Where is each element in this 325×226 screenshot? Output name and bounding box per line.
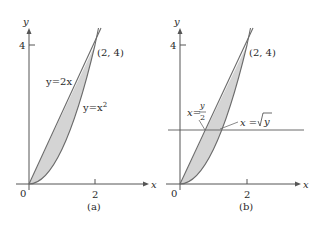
y-axis-label-b: y — [173, 16, 180, 27]
parabola-label-base-a: y=x — [82, 102, 103, 113]
line-label-num-b: y — [199, 101, 205, 110]
caption-b: (b) — [239, 201, 253, 212]
y-tick-label-4-b: 4 — [170, 40, 176, 51]
x-axis-arrow-b — [295, 182, 301, 187]
caption-a: (a) — [87, 201, 101, 212]
x-axis-label-a: x — [151, 179, 157, 190]
x-axis-arrow-a — [143, 182, 149, 187]
panel-a: y x 4 0 2 (a) (2, 4) y=2x y=x2 — [16, 16, 157, 212]
panel-b: y x 4 0 2 (b) (2, 4) x= y 2 x = y — [166, 16, 309, 212]
y-axis-label-a: y — [22, 16, 29, 27]
sqrt-label-lhs-b: x = — [240, 117, 257, 128]
origin-label-a: 0 — [20, 188, 26, 199]
x-tick-label-2-a: 2 — [92, 189, 98, 200]
parabola-label-exp-a: 2 — [103, 101, 107, 109]
line-label-a: y=2x — [45, 76, 72, 87]
origin-label-b: 0 — [171, 188, 177, 199]
x-tick-label-2-b: 2 — [244, 189, 250, 200]
line-label-lhs-b: x= — [187, 107, 201, 118]
y-axis-arrow-a — [27, 28, 32, 34]
point-label-a: (2, 4) — [97, 47, 124, 58]
parabola-label-a: y=x2 — [82, 101, 107, 113]
line-x-y-over-2-b — [180, 28, 253, 184]
x-axis-label-b: x — [303, 179, 309, 190]
sqrt-label-arg-b: y — [263, 116, 270, 127]
point-label-b: (2, 4) — [249, 47, 276, 58]
y-axis-arrow-b — [178, 28, 183, 34]
diagram-canvas: y x 4 0 2 (a) (2, 4) y=2x y=x2 y x — [0, 0, 325, 226]
y-tick-label-4-a: 4 — [19, 40, 25, 51]
line-label-den-b: 2 — [200, 113, 205, 122]
